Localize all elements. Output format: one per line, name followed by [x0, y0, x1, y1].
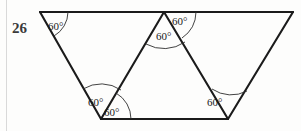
angle-arc-bottom-left-upper	[83, 84, 121, 90]
angle-label-apex-inner: 60°	[156, 30, 171, 42]
edge-right-leg	[228, 12, 293, 119]
edge-middle-left-leg	[101, 12, 164, 119]
angle-label-top-left: 60°	[48, 20, 63, 32]
figure-page: 26 60° 60° 60° 60° 60° 60°	[0, 0, 301, 131]
angle-arc-apex-inner	[146, 42, 185, 49]
angle-label-apex-right: 60°	[172, 15, 187, 27]
geometry-figure	[0, 0, 301, 131]
angle-label-bottom-right: 60°	[207, 96, 222, 108]
angle-label-bottom-left-upper: 60°	[88, 96, 103, 108]
angle-arc-bottom-right	[212, 89, 247, 95]
angle-label-bottom-left-lower: 60°	[104, 106, 119, 118]
